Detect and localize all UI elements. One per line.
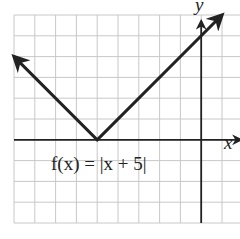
- function-equation-label: f(x) = |x + 5|: [51, 153, 147, 175]
- y-axis-label: y: [193, 0, 204, 15]
- x-axis-label: x: [223, 132, 233, 153]
- grid-lines: [14, 15, 240, 223]
- graph-plot: x y f(x) = |x + 5|: [0, 0, 240, 239]
- axes: [14, 21, 240, 223]
